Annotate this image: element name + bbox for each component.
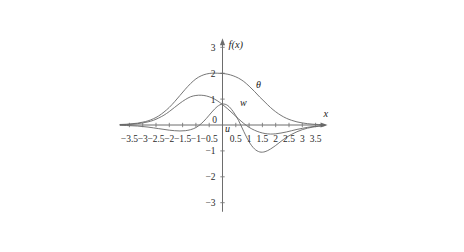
plot-canvas: −3.5−3−2.5−2−1.5−1−0.50.511.522.533.5 −3…: [0, 0, 464, 252]
curve-label-u: u: [225, 123, 230, 134]
curve-label-θ: θ: [256, 79, 261, 90]
x-tick-label: −3.5: [121, 134, 138, 144]
axes-group: [120, 38, 327, 212]
origin-label: 0: [212, 115, 217, 125]
y-tick-label: 2: [211, 69, 216, 79]
y-tick-label: −2: [205, 172, 215, 182]
x-tick-label: −0.5: [201, 134, 218, 144]
chart-figure: −3.5−3−2.5−2−1.5−1−0.50.511.522.533.5 −3…: [0, 0, 464, 252]
y-tick-label: −1: [205, 146, 215, 156]
x-tick-label: 2.5: [283, 134, 295, 144]
curve-annotations: θwu: [225, 79, 261, 134]
y-axis-label: f(x): [229, 39, 244, 51]
x-tick-label: 3.5: [310, 134, 322, 144]
x-tick-label: 3: [300, 134, 305, 144]
y-tick-label: 3: [211, 43, 216, 53]
x-tick-label: 1: [247, 134, 252, 144]
x-tick-label: 2: [273, 134, 278, 144]
y-tick-label: −3: [205, 198, 215, 208]
x-tick-label: 1.5: [256, 134, 268, 144]
curve-label-w: w: [240, 97, 247, 108]
x-tick-label: 0.5: [230, 134, 242, 144]
x-tick-label: −1.5: [174, 134, 191, 144]
x-axis-label: x: [323, 108, 329, 119]
y-tick-label: 1: [211, 95, 216, 105]
y-axis-arrow: [220, 38, 225, 45]
x-axis-tick-labels: −3.5−3−2.5−2−1.5−1−0.50.511.522.533.5: [121, 134, 322, 144]
x-tick-label: −2.5: [147, 134, 164, 144]
